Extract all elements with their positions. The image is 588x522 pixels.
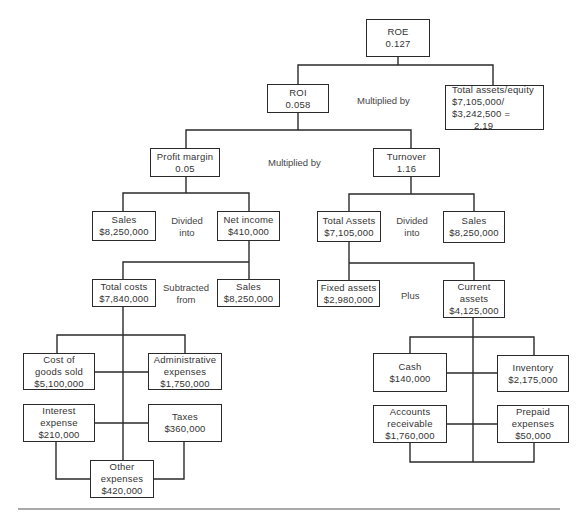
node-label: Cash (399, 361, 422, 373)
operator-plus: Plus (401, 290, 419, 302)
node-value: $410,000 (228, 226, 269, 238)
node-profit-margin: Profit margin 0.05 (150, 148, 220, 177)
node-label: ROE (387, 26, 408, 38)
node-value: 0.05 (175, 163, 194, 175)
operator-line: Subtracted (162, 282, 210, 294)
node-label: Turnover (387, 151, 426, 163)
node-value: $8,250,000 (449, 227, 499, 239)
node-label: Administrative (154, 354, 216, 366)
node-administrative-expenses: Administrative expenses $1,750,000 (148, 353, 222, 390)
node-value: 1.16 (397, 163, 416, 175)
node-label2: expense (40, 417, 77, 429)
node-prepaid-expenses: Prepaid expenses $50,000 (497, 405, 569, 443)
node-sales: Sales $8,250,000 (92, 211, 156, 241)
operator-line: Divided (170, 215, 204, 227)
node-value: $1,750,000 (160, 378, 210, 390)
node-value: $4,125,000 (449, 305, 499, 317)
node-label: Taxes (172, 411, 198, 423)
node-label: ROI (289, 87, 307, 99)
node-value: $360,000 (164, 423, 205, 435)
node-value: $210,000 (38, 429, 79, 441)
node-label: Current (457, 281, 490, 293)
operator-line: from (162, 294, 210, 306)
node-roe: ROE 0.127 (366, 19, 430, 57)
node-sales: Sales $8,250,000 (217, 279, 280, 307)
node-net-income: Net income $410,000 (217, 211, 280, 241)
node-label: Profit margin (157, 151, 213, 163)
connector-lines (0, 0, 588, 522)
node-value: $8,250,000 (224, 293, 274, 305)
node-label2: expenses (164, 366, 206, 378)
operator-divided-into: Divided into (170, 215, 204, 239)
node-line3: $3,242,500 = (452, 108, 510, 120)
node-value: $420,000 (101, 485, 142, 497)
node-value: $2,175,000 (508, 374, 558, 386)
operator-subtracted-from: Subtracted from (162, 282, 210, 306)
node-label: Total Assets (322, 215, 375, 227)
node-label: Prepaid (516, 406, 550, 418)
node-fixed-assets: Fixed assets $2,980,000 (317, 280, 380, 307)
operator-line: Divided (395, 215, 429, 227)
node-label: Sales (462, 215, 487, 227)
node-value: $2,980,000 (324, 294, 374, 306)
node-value: 0.058 (286, 99, 311, 111)
operator-divided-into: Divided into (395, 215, 429, 239)
node-label2: assets (460, 293, 489, 305)
node-label2: goods sold (35, 366, 83, 378)
node-equity-multiplier: Total assets/equity $7,105,000/ $3,242,5… (445, 85, 544, 130)
node-label: Sales (236, 281, 261, 293)
node-interest-expense: Interest expense $210,000 (23, 404, 95, 442)
node-value: $1,760,000 (385, 430, 435, 442)
node-inventory: Inventory $2,175,000 (497, 355, 569, 392)
node-cash: Cash $140,000 (373, 353, 447, 392)
node-current-assets: Current assets $4,125,000 (443, 280, 505, 318)
node-label: Cost of (43, 354, 75, 366)
node-accounts-receivable: Accounts receivable $1,760,000 (373, 405, 447, 443)
node-label: Total costs (100, 281, 147, 293)
node-label: Interest (42, 405, 75, 417)
node-value: $7,105,000 (324, 227, 374, 239)
node-total-assets: Total Assets $7,105,000 (317, 211, 381, 242)
node-cost-of-goods-sold: Cost of goods sold $5,100,000 (23, 353, 95, 390)
node-label: Sales (112, 214, 137, 226)
operator-line: into (395, 227, 429, 239)
node-label: Net income (223, 214, 273, 226)
node-turnover: Turnover 1.16 (373, 148, 440, 177)
operator-multiplied-by: Multiplied by (268, 157, 321, 169)
node-value: $5,100,000 (34, 378, 84, 390)
node-taxes: Taxes $360,000 (148, 404, 222, 442)
node-label: Other (110, 461, 135, 473)
node-label: Total assets/equity (452, 84, 534, 96)
node-value: 0.127 (386, 38, 411, 50)
node-value: $140,000 (389, 373, 430, 385)
operator-multiplied-by: Multiplied by (357, 95, 410, 107)
node-label2: receivable (387, 418, 432, 430)
node-label2: expenses (101, 473, 143, 485)
operator-line: into (170, 227, 204, 239)
node-value: $50,000 (515, 430, 551, 442)
node-label: Accounts (390, 406, 431, 418)
node-sales: Sales $8,250,000 (443, 211, 505, 243)
node-other-expenses: Other expenses $420,000 (90, 460, 154, 498)
node-line2: $7,105,000/ (452, 96, 504, 108)
node-value: 2.19 (452, 120, 493, 132)
node-roi: ROI 0.058 (267, 84, 329, 113)
node-label: Inventory (513, 362, 554, 374)
node-value: $8,250,000 (99, 226, 149, 238)
node-label: Fixed assets (321, 282, 377, 294)
node-value: $7,840,000 (99, 293, 149, 305)
node-label2: expenses (512, 418, 554, 430)
node-total-costs: Total costs $7,840,000 (92, 279, 156, 307)
